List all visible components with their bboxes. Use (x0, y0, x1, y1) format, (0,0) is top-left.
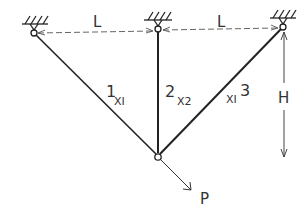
dimension-label-l-right: L (217, 13, 226, 31)
member-3-number: 3 (240, 81, 250, 100)
member-2-number: 2 (165, 82, 175, 101)
load-node (155, 154, 161, 160)
member-3 (160, 29, 281, 154)
right-pin-support (270, 10, 296, 30)
left-pin-support (22, 16, 48, 36)
member-1-variable: XI (114, 95, 125, 108)
load-label-p: P (200, 190, 209, 208)
truss-diagram: L L H 1 XI 2 X2 XI 3 P (0, 0, 308, 218)
dimension-label-h: H (278, 89, 289, 107)
member-1 (36, 35, 156, 154)
member-3-variable: XI (226, 93, 237, 106)
load-arrow (161, 160, 191, 190)
dimension-label-l-left: L (93, 13, 102, 31)
member-2-variable: X2 (177, 95, 192, 108)
